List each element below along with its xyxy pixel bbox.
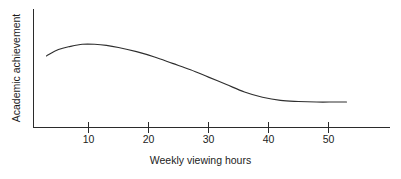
x-tick-label-30: 30 bbox=[194, 133, 224, 145]
chart-figure: 10 20 30 40 50 Weekly viewing hours Acad… bbox=[0, 0, 401, 179]
achievement-curve bbox=[47, 44, 347, 102]
y-axis-label-wrapper: Academic achievement bbox=[0, 0, 30, 140]
x-tick-label-50: 50 bbox=[314, 133, 344, 145]
x-axis-label: Weekly viewing hours bbox=[0, 154, 401, 166]
y-axis-label: Academic achievement bbox=[10, 8, 22, 128]
x-tick-label-20: 20 bbox=[134, 133, 164, 145]
chart-plot-area bbox=[0, 0, 401, 179]
x-tick-label-10: 10 bbox=[74, 133, 104, 145]
x-tick-label-40: 40 bbox=[254, 133, 284, 145]
